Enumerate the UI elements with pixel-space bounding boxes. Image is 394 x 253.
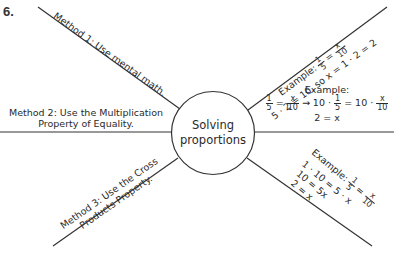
example2-equation: 15 = x10 → 10 · 15 = 10 · x10: [262, 95, 392, 112]
method2-line2: Property of Equality.: [6, 118, 166, 129]
problem-number: 6.: [3, 4, 14, 19]
center-line1: Solving: [171, 118, 255, 133]
example2-result: 2 = x: [262, 112, 392, 123]
method2-line1: Method 2: Use the Multiplication: [6, 107, 166, 118]
example2-label: Example: 15 = x10 → 10 · 15 = 10 · x10 2…: [262, 84, 392, 123]
method2-label: Method 2: Use the Multiplication Propert…: [6, 107, 166, 129]
center-label: Solving proportions: [171, 118, 255, 148]
center-line2: proportions: [171, 133, 255, 148]
example2-title: Example:: [262, 84, 392, 95]
